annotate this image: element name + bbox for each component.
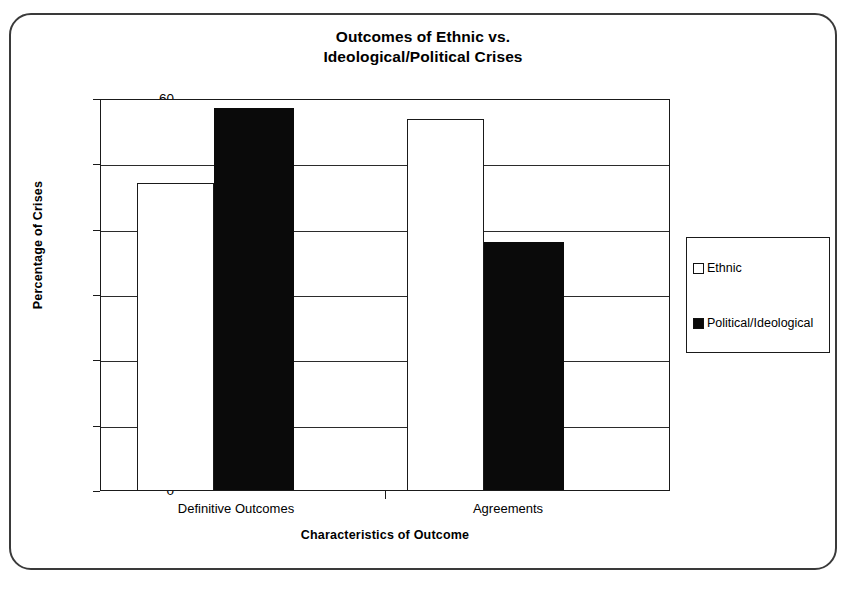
legend-swatch-ethnic xyxy=(693,263,704,274)
x-tick-mark xyxy=(385,491,386,499)
legend-swatch-political-ideological xyxy=(693,318,704,329)
bar-ethnic-definitive-outcomes xyxy=(137,183,214,490)
legend-item-ethnic: Ethnic xyxy=(693,262,742,275)
bar-ethnic-agreements xyxy=(407,119,484,490)
y-tick-mark xyxy=(93,295,100,296)
plot-area xyxy=(100,99,670,491)
x-axis-label: Characteristics of Outcome xyxy=(100,528,670,542)
gridline xyxy=(101,165,669,166)
y-tick-mark xyxy=(93,230,100,231)
y-tick-mark xyxy=(93,99,100,100)
y-tick-mark xyxy=(93,164,100,165)
y-tick-mark xyxy=(93,491,100,492)
x-category-label: Definitive Outcomes xyxy=(126,501,346,516)
legend-item-political-ideological: Political/Ideological xyxy=(693,317,813,330)
y-axis-label: Percentage of Crises xyxy=(31,150,45,340)
legend-label-ethnic: Ethnic xyxy=(707,262,742,275)
bar-chart: Outcomes of Ethnic vs. Ideological/Polit… xyxy=(0,0,846,595)
bar-political-ideological-agreements xyxy=(484,242,564,490)
chart-legend: Ethnic Political/Ideological xyxy=(686,237,830,353)
bar-political-ideological-definitive-outcomes xyxy=(214,108,294,490)
y-tick-mark xyxy=(93,360,100,361)
chart-title-line-1: Outcomes of Ethnic vs. xyxy=(233,27,613,47)
legend-label-political-ideological: Political/Ideological xyxy=(707,317,813,330)
chart-title-line-2: Ideological/Political Crises xyxy=(233,47,613,67)
y-tick-mark xyxy=(93,426,100,427)
x-category-label: Agreements xyxy=(398,501,618,516)
chart-title: Outcomes of Ethnic vs. Ideological/Polit… xyxy=(233,27,613,67)
